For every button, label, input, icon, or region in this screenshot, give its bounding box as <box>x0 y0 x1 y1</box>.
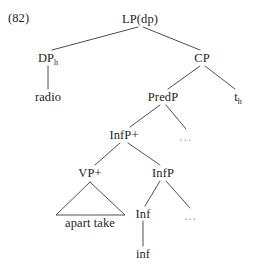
tree-ellipsis-predp: … <box>179 130 193 145</box>
edge-predp-ellipsis <box>166 105 186 129</box>
tree-leaf-apart-take: apart take <box>65 217 115 230</box>
tree-leaf-trace: th <box>234 91 242 104</box>
tree-node-infp-plus: InfP+ <box>109 129 138 142</box>
tree-node-dp-label: DP <box>38 51 54 65</box>
tree-leaf-radio: radio <box>35 91 61 104</box>
tree-node-dp: DPh <box>38 52 58 65</box>
tree-leaf-inf: inf <box>136 248 150 261</box>
tree-node-predp: PredP <box>148 91 178 104</box>
edge-infp-plus-infp <box>128 143 160 165</box>
tree-node-root-lp: LP(dp) <box>122 13 158 26</box>
edge-root-cp <box>143 27 200 50</box>
example-number: (82) <box>8 12 29 25</box>
edge-infp-ellipsis <box>166 181 190 208</box>
constituent-triangle <box>56 182 125 215</box>
edge-predp-infp-plus <box>130 105 160 127</box>
edge-infp-plus-vp-plus <box>95 143 120 165</box>
syntax-tree-figure: (82) LP(dp) DPh CP radio PredP th InfP+ … <box>0 0 258 269</box>
tree-node-infp: InfP <box>152 167 174 180</box>
tree-ellipsis-infp: … <box>184 209 198 224</box>
edge-cp-trace <box>205 66 235 89</box>
tree-node-inf-head: Inf <box>136 208 151 221</box>
tree-node-dp-subscript: h <box>54 57 58 66</box>
edge-infp-inf <box>145 181 160 206</box>
tree-node-vp-plus: VP+ <box>78 167 101 180</box>
tree-node-cp: CP <box>194 52 210 65</box>
edge-root-dp <box>52 27 138 50</box>
edge-cp-predp <box>168 66 200 89</box>
tree-leaf-trace-subscript: h <box>238 96 242 105</box>
